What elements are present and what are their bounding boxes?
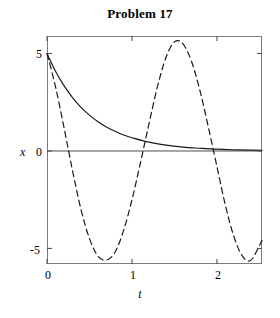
ytick-label-bottom: -5	[14, 244, 40, 256]
figure: Problem 17 5 0 -5 0 1 2 x t	[0, 0, 280, 318]
xtick-label-2: 2	[208, 269, 228, 281]
xtick-label-1: 1	[123, 269, 143, 281]
ytick-label-top: 5	[16, 48, 42, 60]
y-axis-label: x	[20, 145, 25, 160]
plot-canvas	[47, 36, 262, 264]
x-axis-label: t	[0, 287, 280, 302]
series-solid-curve	[47, 54, 262, 151]
xtick-label-0: 0	[38, 269, 58, 281]
chart-title: Problem 17	[0, 6, 280, 22]
